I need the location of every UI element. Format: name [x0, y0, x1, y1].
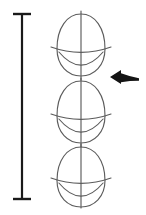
figure-canvas: Egg proportion construction drawing Thre…	[0, 0, 146, 215]
egg-proportion-diagram	[0, 0, 146, 215]
